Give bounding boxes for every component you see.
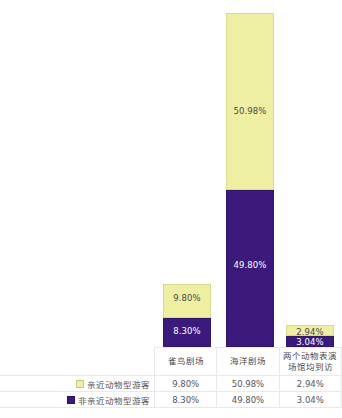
column-header-3-line1: 两个动物表演 <box>280 351 341 362</box>
table-cell-series1-cat1: 9.80% <box>155 376 217 392</box>
table-row: 非亲近动物型游客 8.30% 49.80% 3.04% <box>0 392 342 408</box>
column-header-1: 雀鸟剧场 <box>155 348 217 376</box>
data-table: 雀鸟剧场 海洋剧场 两个动物表演 场馆均到访 亲近动物型游客 9.80% <box>0 347 342 408</box>
legend-swatch-purple <box>67 396 75 404</box>
bar-label-series1-cat1: 9.80% <box>164 293 210 303</box>
table-cell-series2-cat3: 3.04% <box>279 392 341 408</box>
bar-segment-series1-cat3[interactable]: 2.94% <box>286 325 334 336</box>
bar-group-3: 2.94% 3.04% <box>286 325 334 347</box>
table-cell-series1-cat2: 50.98% <box>217 376 279 392</box>
bar-segment-series1-cat2[interactable]: 50.98% <box>226 13 274 190</box>
column-header-3-line2: 场馆均到访 <box>280 362 341 373</box>
table-header-row: 雀鸟剧场 海洋剧场 两个动物表演 场馆均到访 <box>0 348 342 376</box>
bar-segment-series2-cat1[interactable]: 8.30% <box>163 318 211 347</box>
table-cell-series2-cat2: 49.80% <box>217 392 279 408</box>
legend-swatch-yellow <box>76 380 84 388</box>
bar-label-series2-cat2: 49.80% <box>227 260 273 270</box>
bar-segment-series2-cat3[interactable]: 3.04% <box>286 336 334 347</box>
column-header-3: 两个动物表演 场馆均到访 <box>279 348 341 376</box>
plot-area: 9.80% 8.30% 50.98% 49.80% 2.94% 3.04% <box>0 0 342 347</box>
bar-segment-series2-cat2[interactable]: 49.80% <box>226 190 274 347</box>
column-header-1-line1: 雀鸟剧场 <box>155 356 216 367</box>
bar-group-1: 9.80% 8.30% <box>163 284 211 347</box>
legend-label-series2: 非亲近动物型游客 <box>78 394 150 406</box>
bar-segment-series1-cat1[interactable]: 9.80% <box>163 284 211 318</box>
bar-label-series2-cat1: 8.30% <box>164 326 210 336</box>
legend-entry-series2[interactable]: 非亲近动物型游客 <box>0 392 155 408</box>
table-row: 亲近动物型游客 9.80% 50.98% 2.94% <box>0 376 342 392</box>
stacked-bar-chart: 9.80% 8.30% 50.98% 49.80% 2.94% 3.04% <box>0 0 342 418</box>
table-cell-series2-cat1: 8.30% <box>155 392 217 408</box>
bar-label-series2-cat3: 3.04% <box>287 337 333 347</box>
bar-group-2: 50.98% 49.80% <box>226 13 274 347</box>
column-header-2-line1: 海洋剧场 <box>217 356 278 367</box>
legend-entry-series1[interactable]: 亲近动物型游客 <box>0 376 155 392</box>
bar-label-series1-cat2: 50.98% <box>227 106 273 116</box>
legend-label-series1: 亲近动物型游客 <box>87 378 150 390</box>
table-cell-series1-cat3: 2.94% <box>279 376 341 392</box>
column-header-2: 海洋剧场 <box>217 348 279 376</box>
table-header-corner <box>0 348 155 376</box>
